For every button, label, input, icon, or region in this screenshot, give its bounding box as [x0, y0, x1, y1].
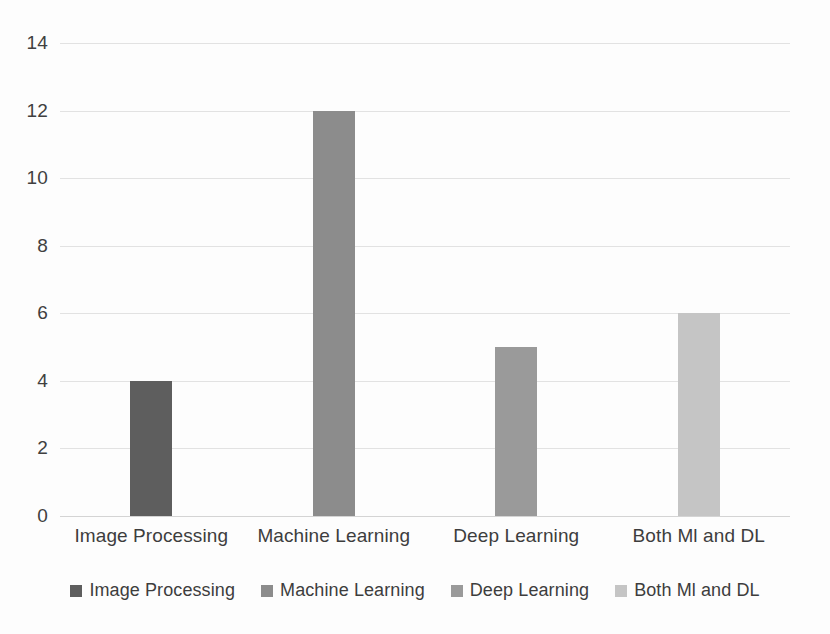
y-axis-tick-label: 6: [2, 302, 48, 324]
legend-item[interactable]: Image Processing: [70, 580, 235, 601]
legend-label: Image Processing: [89, 580, 235, 601]
bar[interactable]: [130, 381, 172, 516]
y-axis-tick-label: 12: [2, 100, 48, 122]
x-axis-tick-label: Image Processing: [74, 525, 228, 547]
legend-swatch-icon: [70, 585, 82, 597]
gridline: [60, 178, 790, 179]
y-axis-tick-label: 4: [2, 370, 48, 392]
legend-swatch-icon: [261, 585, 273, 597]
legend-label: Machine Learning: [280, 580, 425, 601]
gridline: [60, 246, 790, 247]
x-axis-tick-label: Machine Learning: [257, 525, 410, 547]
gridline: [60, 516, 790, 517]
y-axis: 02468101214: [0, 43, 48, 516]
chart-legend: Image ProcessingMachine LearningDeep Lea…: [0, 580, 830, 601]
y-axis-tick-label: 8: [2, 235, 48, 257]
legend-label: Both Ml and DL: [634, 580, 759, 601]
y-axis-tick-label: 0: [2, 505, 48, 527]
gridline: [60, 111, 790, 112]
gridline: [60, 43, 790, 44]
legend-item[interactable]: Deep Learning: [451, 580, 589, 601]
bar[interactable]: [313, 111, 355, 516]
y-axis-tick-label: 10: [2, 167, 48, 189]
plot-area: [60, 43, 790, 516]
x-axis: Image ProcessingMachine LearningDeep Lea…: [60, 525, 790, 555]
bar[interactable]: [495, 347, 537, 516]
x-axis-tick-label: Deep Learning: [453, 525, 579, 547]
y-axis-tick-label: 2: [2, 437, 48, 459]
x-axis-tick-label: Both Ml and DL: [633, 525, 765, 547]
bar-chart: 02468101214 Image ProcessingMachine Lear…: [0, 0, 830, 634]
y-axis-tick-label: 14: [2, 32, 48, 54]
legend-item[interactable]: Both Ml and DL: [615, 580, 759, 601]
legend-swatch-icon: [615, 585, 627, 597]
legend-item[interactable]: Machine Learning: [261, 580, 425, 601]
bar[interactable]: [678, 313, 720, 516]
legend-label: Deep Learning: [470, 580, 589, 601]
legend-swatch-icon: [451, 585, 463, 597]
